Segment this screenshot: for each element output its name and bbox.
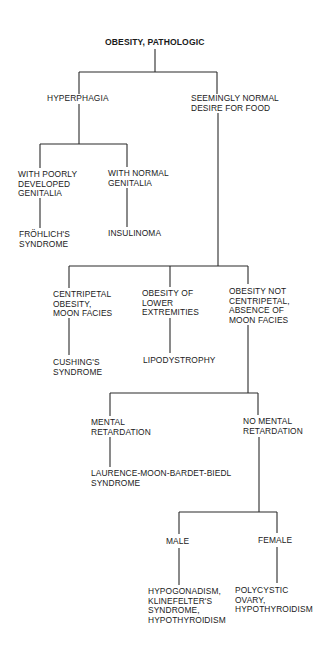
node-insulinoma: INSULINOMA xyxy=(108,229,161,239)
node-frohlich-syndrome: FRÖHLICH'S SYNDROME xyxy=(19,230,70,249)
node-centripetal-obesity: CENTRIPETAL OBESITY, MOON FACIES xyxy=(53,290,112,319)
node-normal-desire: SEEMINGLY NORMAL DESIRE FOR FOOD xyxy=(191,94,279,113)
node-hyperphagia: HYPERPHAGIA xyxy=(47,94,109,104)
node-lower-extremities: OBESITY OF LOWER EXTREMITIES xyxy=(142,289,199,318)
node-female-diagnoses: POLYCYSTIC OVARY, HYPOTHYROIDISM xyxy=(235,586,313,615)
node-lipodystrophy: LIPODYSTROPHY xyxy=(143,356,216,366)
node-male: MALE xyxy=(166,537,189,547)
node-no-mental-retardation: NO MENTAL RETARDATION xyxy=(243,417,303,436)
root-node-obesity-pathologic: OBESITY, PATHOLOGIC xyxy=(105,38,204,48)
node-mental-retardation: MENTAL RETARDATION xyxy=(91,418,151,437)
node-normal-genitalia: WITH NORMAL GENITALIA xyxy=(108,169,169,188)
node-poor-genitalia: WITH POORLY DEVELOPED GENITALIA xyxy=(18,170,77,199)
node-male-diagnoses: HYPOGONADISM, KLINEFELTER'S SYNDROME, HY… xyxy=(148,587,226,625)
node-female: FEMALE xyxy=(258,536,292,546)
node-not-centripetal: OBESITY NOT CENTRIPETAL, ABSENCE OF MOON… xyxy=(229,287,290,325)
node-cushing-syndrome: CUSHING'S SYNDROME xyxy=(53,358,102,377)
node-laurence-moon-bardet-biedl: LAURENCE-MOON-BARDET-BIEDL SYNDROME xyxy=(91,469,231,488)
